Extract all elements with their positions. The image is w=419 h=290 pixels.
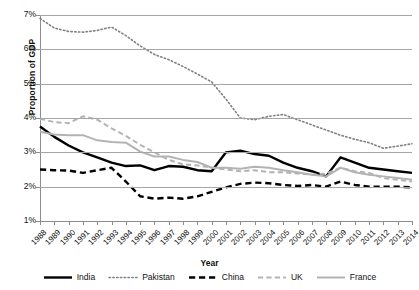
x-tick-mark bbox=[283, 221, 284, 225]
legend-label: Pakistan bbox=[142, 272, 175, 282]
x-tick-mark bbox=[197, 221, 198, 225]
legend-label: France bbox=[350, 272, 376, 282]
legend-label: China bbox=[222, 272, 244, 282]
gridline bbox=[40, 49, 412, 50]
gridline bbox=[40, 152, 412, 153]
chart-legend: IndiaPakistanChinaUKFrance bbox=[0, 272, 419, 282]
legend-swatch-china bbox=[188, 273, 218, 282]
y-tick-label: 7% bbox=[6, 10, 36, 19]
x-tick-mark bbox=[326, 221, 327, 225]
legend-swatch-india bbox=[43, 273, 73, 282]
x-tick-mark bbox=[154, 221, 155, 225]
y-tick-mark bbox=[35, 84, 40, 85]
y-tick-label: 4% bbox=[6, 113, 36, 122]
x-tick-mark bbox=[240, 221, 241, 225]
y-tick-label: 5% bbox=[6, 79, 36, 88]
legend-item-china[interactable]: China bbox=[188, 272, 244, 282]
y-tick-mark bbox=[35, 49, 40, 50]
x-tick-mark bbox=[269, 221, 270, 225]
legend-swatch-uk bbox=[257, 273, 287, 282]
legend-swatch-france bbox=[316, 273, 346, 282]
x-tick-mark bbox=[383, 221, 384, 225]
x-tick-mark bbox=[83, 221, 84, 225]
line-chart: Proportion of GDP 1%2%3%4%5%6%7% 1988198… bbox=[0, 0, 419, 290]
x-tick-mark bbox=[212, 221, 213, 225]
legend-label: India bbox=[77, 272, 95, 282]
y-tick-mark bbox=[35, 152, 40, 153]
x-tick-mark bbox=[97, 221, 98, 225]
x-tick-mark bbox=[226, 221, 227, 225]
x-axis-title: Year bbox=[0, 258, 419, 268]
y-tick-label: 6% bbox=[6, 44, 36, 53]
legend-swatch-pakistan bbox=[108, 273, 138, 282]
y-tick-mark bbox=[35, 187, 40, 188]
y-tick-label: 1% bbox=[6, 216, 36, 225]
gridline bbox=[40, 15, 412, 16]
x-tick-mark bbox=[412, 221, 413, 225]
gridline bbox=[40, 118, 412, 119]
y-tick-label: 2% bbox=[6, 182, 36, 191]
x-tick-mark bbox=[255, 221, 256, 225]
x-tick-mark bbox=[54, 221, 55, 225]
x-tick-mark bbox=[169, 221, 170, 225]
y-tick-mark bbox=[35, 15, 40, 16]
x-tick-mark bbox=[140, 221, 141, 225]
gridline bbox=[40, 187, 412, 188]
x-tick-mark bbox=[312, 221, 313, 225]
x-tick-mark bbox=[126, 221, 127, 225]
x-tick-mark bbox=[355, 221, 356, 225]
x-tick-mark bbox=[398, 221, 399, 225]
y-tick-label: 3% bbox=[6, 147, 36, 156]
legend-item-pakistan[interactable]: Pakistan bbox=[108, 272, 175, 282]
x-tick-mark bbox=[298, 221, 299, 225]
x-tick-mark bbox=[369, 221, 370, 225]
x-tick-mark bbox=[183, 221, 184, 225]
plot-area bbox=[40, 15, 412, 221]
legend-label: UK bbox=[291, 272, 303, 282]
legend-item-france[interactable]: France bbox=[316, 272, 376, 282]
legend-item-uk[interactable]: UK bbox=[257, 272, 303, 282]
y-tick-mark bbox=[35, 118, 40, 119]
legend-item-india[interactable]: India bbox=[43, 272, 95, 282]
x-tick-mark bbox=[40, 221, 41, 225]
x-tick-mark bbox=[112, 221, 113, 225]
x-tick-mark bbox=[340, 221, 341, 225]
gridline bbox=[40, 84, 412, 85]
x-tick-mark bbox=[69, 221, 70, 225]
